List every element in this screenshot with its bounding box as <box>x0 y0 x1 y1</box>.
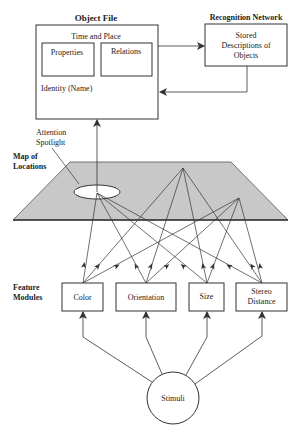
module-orientation: Orientation <box>116 283 176 311</box>
stored-descriptions-line3: Objects <box>234 51 258 60</box>
relations-label: Relations <box>111 47 141 56</box>
arrow-from-recognition <box>160 66 247 92</box>
module-stereo-distance: Stereo Distance <box>236 283 287 311</box>
module-color-label: Color <box>73 293 92 302</box>
time-place-label: Time and Place <box>71 32 121 41</box>
module-size: Size <box>189 283 224 311</box>
map-label-line2: Locations <box>13 162 46 171</box>
properties-label: Properties <box>51 48 83 57</box>
module-stereo-label-line2: Distance <box>248 297 276 306</box>
identity-label: Identity (Name) <box>41 84 93 93</box>
map-of-locations-plane <box>13 162 288 220</box>
feature-label-line1: Feature <box>13 283 40 292</box>
object-file: Object File Time and Place Properties Re… <box>36 13 158 119</box>
map-label-line1: Map of <box>13 152 38 161</box>
module-color: Color <box>62 283 103 311</box>
recognition-network: Recognition Network Stored Descriptions … <box>205 13 287 66</box>
recognition-network-title: Recognition Network <box>210 13 283 22</box>
stored-descriptions-line1: Stored <box>236 31 257 40</box>
stored-descriptions-line2: Descriptions of <box>221 41 270 50</box>
module-size-label: Size <box>200 292 214 301</box>
feature-integration-diagram: Object File Time and Place Properties Re… <box>0 0 306 440</box>
attention-label-line2: Spotlight <box>36 138 66 147</box>
module-stereo-label-line1: Stereo <box>251 287 271 296</box>
feature-label-line2: Modules <box>13 293 42 302</box>
attention-label-line1: Attention <box>36 128 66 137</box>
module-orientation-label: Orientation <box>128 293 164 302</box>
stimuli-label: Stimuli <box>161 394 185 403</box>
object-file-title: Object File <box>75 13 118 23</box>
